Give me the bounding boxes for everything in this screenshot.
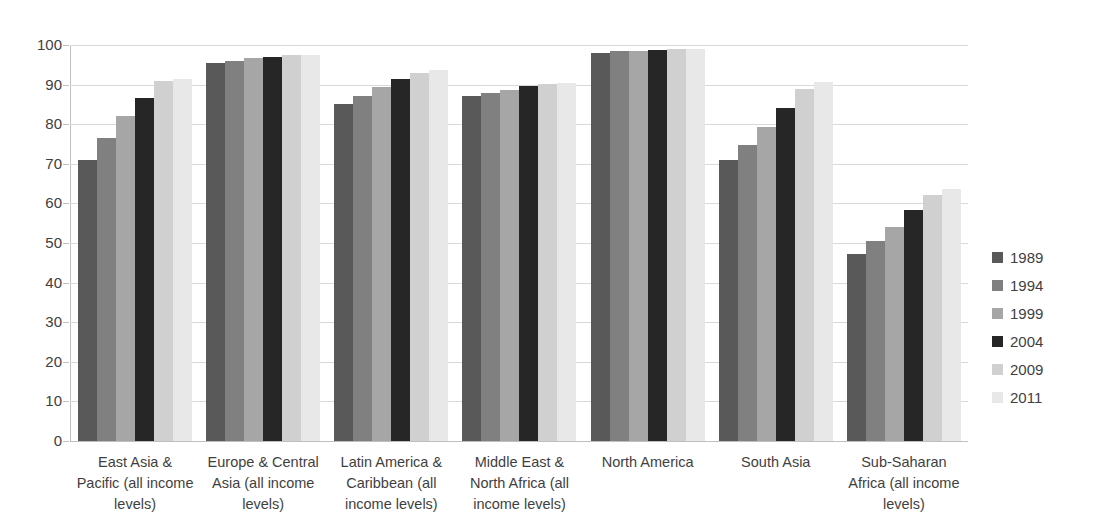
- bar: [173, 79, 192, 441]
- bar-group: [199, 45, 327, 441]
- bar: [353, 96, 372, 441]
- x-axis-category-label: South Asia: [712, 452, 840, 515]
- legend-swatch-icon: [992, 252, 1003, 263]
- bar-chart: 1009080706050403020100 East Asia & Pacif…: [0, 0, 1102, 526]
- bar-group: [840, 45, 968, 441]
- bar: [500, 90, 519, 441]
- y-axis-tick-mark: [63, 441, 69, 442]
- y-axis-tick-mark: [63, 164, 69, 165]
- bar: [519, 86, 538, 441]
- bar: [116, 116, 135, 441]
- gridline: [70, 441, 968, 442]
- x-axis-category-label: Middle East & North Africa (all income l…: [455, 452, 583, 515]
- legend-swatch-icon: [992, 364, 1003, 375]
- bar-group: [327, 45, 455, 441]
- legend-item: 1994: [992, 271, 1092, 299]
- bar: [97, 138, 116, 441]
- legend-swatch-icon: [992, 392, 1003, 403]
- legend-swatch-icon: [992, 308, 1003, 319]
- bar: [591, 53, 610, 441]
- y-axis-tick-label: 100: [16, 37, 62, 52]
- bar: [538, 84, 557, 441]
- bar: [244, 58, 263, 441]
- x-axis-category-label: Sub-Saharan Africa (all income levels): [840, 452, 968, 515]
- y-axis-tick-mark: [63, 124, 69, 125]
- y-axis-tick-label: 40: [16, 275, 62, 290]
- bar: [885, 227, 904, 441]
- legend-label: 1989: [1010, 250, 1043, 265]
- y-axis-tick-mark: [63, 243, 69, 244]
- bar: [372, 87, 391, 441]
- bar-group: [455, 45, 583, 441]
- bar: [686, 49, 705, 441]
- bar: [334, 104, 353, 441]
- bar: [263, 57, 282, 441]
- bar-group: [584, 45, 712, 441]
- legend-swatch-icon: [992, 336, 1003, 347]
- bar: [776, 108, 795, 441]
- legend-swatch-icon: [992, 280, 1003, 291]
- y-axis-tick-mark: [63, 203, 69, 204]
- bar: [462, 96, 481, 441]
- bar: [301, 55, 320, 441]
- y-axis-tick-label: 10: [16, 393, 62, 408]
- bar: [481, 93, 500, 441]
- bar: [923, 195, 942, 441]
- legend-label: 2011: [1010, 390, 1042, 405]
- y-axis-tick-mark: [63, 45, 69, 46]
- bar: [206, 63, 225, 441]
- y-axis-tick-label: 30: [16, 314, 62, 329]
- legend-item: 2011: [992, 383, 1092, 411]
- legend-label: 2009: [1010, 362, 1043, 377]
- bar: [814, 82, 833, 441]
- bar: [78, 160, 97, 441]
- bar: [557, 83, 576, 441]
- legend-item: 2004: [992, 327, 1092, 355]
- x-axis-category-label: Europe & Central Asia (all income levels…: [199, 452, 327, 515]
- bar: [391, 79, 410, 441]
- legend-item: 1989: [992, 243, 1092, 271]
- y-axis-tick-label: 70: [16, 156, 62, 171]
- y-axis-ticks: 1009080706050403020100: [0, 45, 62, 442]
- bar: [757, 127, 776, 441]
- x-axis-category-label: East Asia & Pacific (all income levels): [71, 452, 199, 515]
- bar-group: [712, 45, 840, 441]
- y-axis-tick-label: 0: [16, 433, 62, 448]
- y-axis-tick-mark: [63, 322, 69, 323]
- y-axis-tick-mark: [63, 362, 69, 363]
- legend-label: 2004: [1010, 334, 1043, 349]
- bar: [942, 189, 961, 441]
- legend-item: 1999: [992, 299, 1092, 327]
- bar: [795, 89, 814, 441]
- y-axis-tick-mark: [63, 85, 69, 86]
- bar: [282, 55, 301, 441]
- y-axis-tick-label: 90: [16, 77, 62, 92]
- x-axis-category-label: North America: [584, 452, 712, 515]
- legend-item: 2009: [992, 355, 1092, 383]
- bar: [135, 98, 154, 441]
- legend: 198919941999200420092011: [992, 243, 1092, 411]
- y-axis-tick-label: 80: [16, 116, 62, 131]
- bar: [738, 145, 757, 441]
- y-axis-tick-label: 50: [16, 235, 62, 250]
- y-axis-tick-label: 60: [16, 195, 62, 210]
- x-axis-category-label: Latin America & Caribbean (all income le…: [327, 452, 455, 515]
- bar-group: [71, 45, 199, 441]
- y-axis-tick-mark: [63, 401, 69, 402]
- bar: [847, 254, 866, 441]
- legend-label: 1999: [1010, 306, 1043, 321]
- bar: [610, 51, 629, 441]
- y-axis-tick-mark: [63, 283, 69, 284]
- bar: [866, 241, 885, 441]
- bar: [719, 160, 738, 441]
- x-axis-labels: East Asia & Pacific (all income levels)E…: [71, 452, 968, 515]
- bar: [225, 61, 244, 441]
- bar-groups: [71, 45, 968, 441]
- bar: [629, 51, 648, 441]
- bar: [667, 49, 686, 441]
- legend-label: 1994: [1010, 278, 1043, 293]
- bar: [154, 81, 173, 441]
- bar: [410, 73, 429, 441]
- y-axis-tick-label: 20: [16, 354, 62, 369]
- bar: [648, 50, 667, 441]
